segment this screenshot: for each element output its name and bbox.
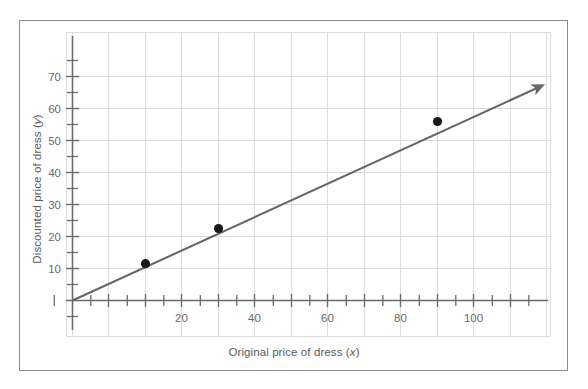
x-tick-label: 20 — [175, 312, 188, 324]
data-point — [433, 117, 442, 126]
x-tick-label: 80 — [394, 312, 407, 324]
y-tick-label: 40 — [48, 167, 61, 179]
data-point — [214, 224, 223, 233]
y-tick-label: 10 — [48, 263, 61, 275]
plot-area-outline — [67, 33, 551, 337]
y-tick-label: 70 — [48, 71, 61, 83]
y-tick-label: 20 — [48, 231, 61, 243]
x-axis-variable: x — [350, 346, 356, 358]
chart-figure: 20 40 60 80 100 10 20 30 40 50 60 70 — [0, 0, 588, 389]
y-tick-label: 30 — [48, 199, 61, 211]
x-tick-label: 40 — [248, 312, 261, 324]
x-axis-title-paren: (x) — [346, 346, 360, 358]
data-point — [141, 259, 150, 268]
x-axis-title: Original price of dress (x) — [0, 346, 588, 358]
x-tick-labels: 20 40 60 80 100 — [175, 312, 483, 324]
line-chart-plot: 20 40 60 80 100 10 20 30 40 50 60 70 — [0, 0, 588, 389]
x-axis-title-text: Original price of dress — [228, 346, 342, 358]
y-axis-title: Discounted price of dress (y) — [31, 69, 43, 309]
y-tick-label: 60 — [48, 103, 61, 115]
y-axis-variable: y — [31, 118, 43, 124]
vertical-gridlines — [73, 32, 547, 336]
y-tick-labels: 10 20 30 40 50 60 70 — [48, 71, 61, 275]
x-tick-label: 100 — [464, 312, 483, 324]
horizontal-gridlines — [66, 77, 551, 301]
y-axis-title-text: Discounted price of dress — [31, 131, 43, 263]
y-axis-title-paren: (y) — [31, 114, 43, 128]
x-tick-label: 60 — [321, 312, 334, 324]
y-tick-label: 50 — [48, 135, 61, 147]
